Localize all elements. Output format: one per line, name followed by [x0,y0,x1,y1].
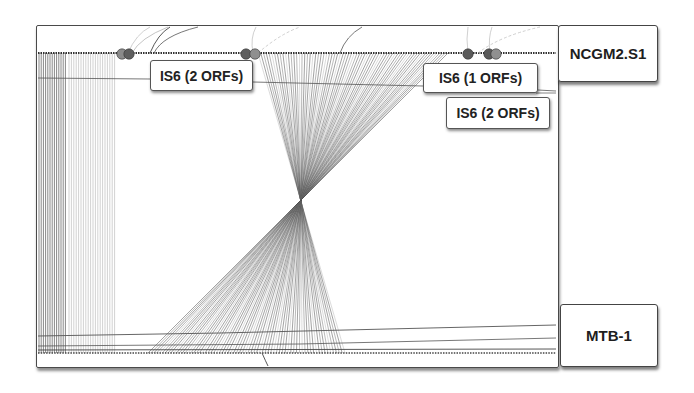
genome-label-bottom[interactable]: MTB-1 [560,304,658,367]
genome-label-top[interactable]: NCGM2.S1 [558,25,658,82]
is6-label-left[interactable]: IS6 (2 ORFs) [150,60,253,91]
is6-label-right-1orf[interactable]: IS6 (1 ORFs) [423,63,538,93]
is6-label-right-2orfs[interactable]: IS6 (2 ORFs) [446,97,550,129]
